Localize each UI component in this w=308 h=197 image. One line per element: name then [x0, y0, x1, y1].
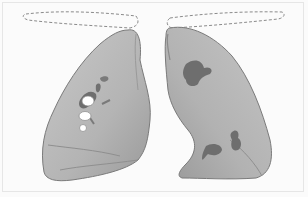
hilar-node	[80, 125, 87, 132]
dashed-outline-right	[167, 12, 284, 28]
left-lung	[165, 27, 271, 179]
hilar-node	[79, 112, 91, 121]
dashed-outline-left	[23, 12, 138, 28]
illustration-frame	[0, 0, 308, 197]
right-lung	[42, 30, 150, 181]
hilar-node	[82, 96, 94, 106]
lungs-diagram	[0, 0, 308, 197]
